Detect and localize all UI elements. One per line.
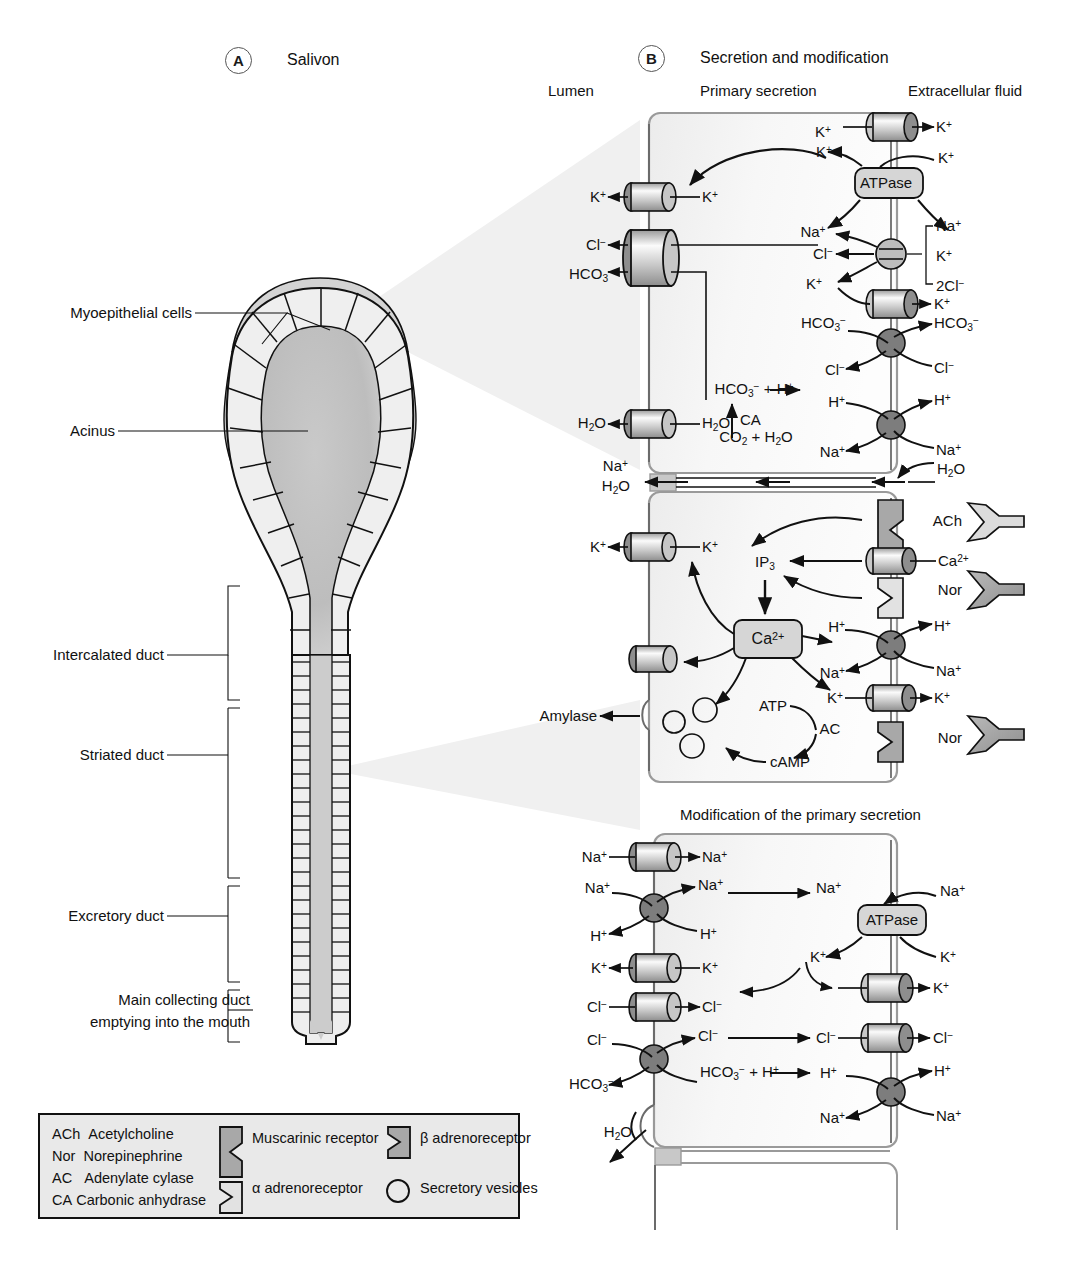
legend-label-muscarinic: Muscarinic receptor: [252, 1130, 379, 1146]
c3-na-lumen-2: Na+: [585, 879, 610, 896]
messenger-calcium: Ca2+: [752, 630, 785, 649]
nor-ligand-beta: [968, 716, 1024, 754]
c3-cl-ecf: Cl−: [933, 1029, 953, 1046]
tight-junction-2: [655, 1148, 897, 1230]
atpase-label-3: ATPase: [866, 911, 918, 928]
muscarinic-receptor-icon: [220, 1127, 242, 1177]
enzyme-ca-label: CA: [740, 411, 761, 428]
c3-reaction-hco3-h: HCO3− + H+: [700, 1063, 779, 1082]
junction-na: Na+: [603, 457, 628, 474]
messenger-camp: cAMP: [770, 753, 810, 770]
c3-na-lumen-1: Na+: [582, 848, 607, 865]
ion-h-cyto-cell2: H+: [828, 618, 845, 635]
label-striated-duct: Striated duct: [80, 746, 164, 763]
panel-b-letter: B: [638, 45, 665, 72]
cell3-title: Modification of the primary secretion: [680, 806, 921, 823]
c3-hco3-lumen: HCO3−: [569, 1075, 614, 1094]
c3-k-ecf-atp: K+: [940, 948, 956, 965]
c3-cl-cyto-2: Cl−: [698, 1027, 718, 1044]
c3-k-cyto: K+: [702, 959, 718, 976]
ligand-nor-beta: Nor: [938, 729, 962, 746]
enzyme-ac-label: AC: [820, 720, 841, 737]
ion-hco3-cyto: HCO3−: [801, 314, 846, 333]
nkcc-k: K+: [936, 247, 952, 264]
column-header-lumen: Lumen: [548, 82, 594, 99]
c3-cl-cyto-1: Cl−: [702, 998, 722, 1015]
legend-label-beta: β adrenoreceptor: [420, 1130, 531, 1146]
c3-na-ecf-2: Na+: [936, 1107, 961, 1124]
c3-h-cyto: H+: [700, 925, 717, 942]
ion-k-ecf-2: K+: [934, 295, 950, 312]
reaction-co2-h2o: CO2 + H2O: [719, 428, 792, 447]
ion-k-cyto-2: K+: [816, 143, 832, 160]
figure-canvas: A Salivon B Secretion and modification L…: [0, 0, 1070, 1279]
c3-h2o-lumen: H2O: [604, 1123, 632, 1142]
nor-ligand-alpha: [968, 571, 1024, 609]
c3-h-lumen: H+: [590, 927, 607, 944]
ion-h-ecf-cell2: H+: [934, 617, 951, 634]
c3-na-cyto-2: Na+: [698, 876, 723, 893]
ion-na-cyto-nhe: Na+: [820, 443, 845, 460]
column-header-primary-secretion: Primary secretion: [700, 82, 817, 99]
beta-adrenoreceptor-icon: [388, 1127, 410, 1158]
ion-k-cyto-nkcc: K+: [806, 275, 822, 292]
ion-na-cyto-nkcc: Na+: [800, 223, 825, 240]
ion-k-apical-1: K+: [590, 188, 606, 205]
c3-na-cyto-4: Na+: [820, 1109, 845, 1126]
ligand-nor-alpha: Nor: [938, 581, 962, 598]
nkcc-na: Na+: [936, 217, 961, 234]
ion-na-cyto-cell2: Na+: [820, 664, 845, 681]
ion-cl-apical: Cl−: [586, 236, 606, 253]
ion-cl-ecf: Cl−: [934, 359, 954, 376]
secretory-vesicle-icon: [387, 1180, 409, 1202]
c3-cl-cyto-3: Cl−: [816, 1029, 836, 1046]
ion-na-ecf-nhe: Na+: [936, 441, 961, 458]
c3-k-ecf-chan: K+: [933, 979, 949, 996]
tight-junction-1: [645, 474, 935, 491]
ion-k-ecf-top: K+: [936, 118, 952, 135]
column-header-extracellular-fluid: Extracellular fluid: [908, 82, 1022, 99]
ion-k-ecf-atpase: K+: [938, 149, 954, 166]
ion-cl-cyto-nkcc: Cl−: [813, 245, 833, 262]
figure-svg: [0, 0, 1070, 1279]
c3-na-cyto-3: Na+: [816, 879, 841, 896]
ion-cl-cyto-2: Cl−: [825, 361, 845, 378]
ion-k-ecf-cell2: K+: [934, 689, 950, 706]
ion-na-ecf-cell2: Na+: [936, 662, 961, 679]
label-acinus: Acinus: [70, 422, 115, 439]
c3-h-ecf: H+: [934, 1062, 951, 1079]
label-main-collecting-duct: Main collecting duct: [118, 991, 250, 1008]
panel-b-title: Secretion and modification: [700, 49, 889, 67]
legend-label-alpha: α adrenoreceptor: [252, 1180, 363, 1196]
label-excretory-duct: Excretory duct: [68, 907, 164, 924]
ion-hco3-ecf: HCO3−: [934, 314, 979, 333]
ach-ligand: [968, 503, 1024, 541]
label-amylase: Amylase: [539, 707, 597, 724]
c3-cl-lumen-2: Cl−: [587, 1031, 607, 1048]
ion-k-apical-cell2: K+: [590, 538, 606, 555]
ion-k-cyto-cell2-b: K+: [827, 689, 843, 706]
c3-cl-lumen-1: Cl−: [587, 998, 607, 1015]
nkcc-2cl: 2Cl−: [936, 277, 964, 294]
reaction-hco3-h: HCO3− + H+: [715, 380, 794, 399]
ion-k-cyto-cell2: K+: [702, 538, 718, 555]
junction-h2o: H2O: [602, 477, 630, 496]
ion-ca-ecf: Ca2+: [938, 552, 969, 569]
ion-hco3-apical: HCO3−: [569, 265, 614, 284]
panel-a-title: Salivon: [287, 51, 339, 69]
atpase-label-1: ATPase: [860, 174, 912, 191]
c3-na-cyto-1: Na+: [702, 848, 727, 865]
messenger-ip3: IP3: [755, 553, 775, 572]
c3-na-ecf: Na+: [940, 882, 965, 899]
ion-h-cyto: H+: [828, 393, 845, 410]
legend-glyphs: [38, 1113, 516, 1215]
alpha-adrenoreceptor-icon: [220, 1182, 242, 1213]
ion-h2o-ecf: H2O: [937, 460, 965, 479]
ion-h-ecf: H+: [934, 391, 951, 408]
label-intercalated-duct: Intercalated duct: [53, 646, 164, 663]
messenger-atp: ATP: [759, 697, 787, 714]
c3-h-cyto-2: H+: [820, 1064, 837, 1081]
legend-label-vesicles: Secretory vesicles: [420, 1180, 538, 1196]
ion-h2o-apical: H2O: [578, 414, 606, 433]
panel-a-letter: A: [225, 47, 252, 74]
